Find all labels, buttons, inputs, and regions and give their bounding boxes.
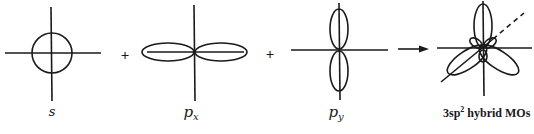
s-orbital xyxy=(5,7,101,101)
sp2-hybrid-orbitals xyxy=(437,1,532,96)
px-label-subscript: x xyxy=(193,111,199,122)
px-orbital xyxy=(142,5,247,101)
py-label-subscript: y xyxy=(337,111,344,122)
s-label: s xyxy=(49,104,56,119)
arrow-head-icon xyxy=(419,46,429,53)
s-y-axis xyxy=(51,7,52,101)
py-orbital xyxy=(291,3,388,100)
py-label: p xyxy=(328,103,338,121)
plus-operator-1: + xyxy=(121,47,130,63)
hybrid-diagonal-dashed-axis xyxy=(493,13,524,39)
hybrid-label: 3sp2 hybrid MOs xyxy=(443,105,531,120)
px-label: p xyxy=(183,103,193,121)
plus-operator-2: + xyxy=(266,46,275,62)
hybridization-diagram: + + s p x p y 3sp2 hybrid MOs xyxy=(0,0,534,134)
yields-arrow xyxy=(398,46,429,53)
